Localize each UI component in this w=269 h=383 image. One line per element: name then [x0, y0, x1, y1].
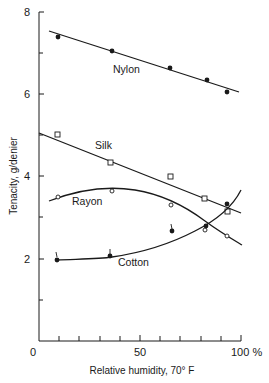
- series-silk: Silk: [39, 132, 241, 214]
- x-axis-title: Relative humidity, 70° F: [90, 365, 195, 376]
- series-nylon: Nylon: [49, 31, 239, 94]
- x-tick-0: 0: [30, 346, 36, 358]
- label-rayon: Rayon: [72, 195, 103, 207]
- tenacity-chart: 8 6 4 2 0 50 100 % Relative humidity, 70…: [0, 0, 269, 383]
- y-tick-6: 6: [24, 88, 30, 100]
- y-tick-4: 4: [24, 170, 30, 182]
- y-tick-8: 8: [24, 6, 30, 18]
- x-tick-100: 100 %: [231, 346, 262, 358]
- y-axis-title: Tenacity, g/denier: [8, 137, 19, 215]
- label-cotton: Cotton: [118, 256, 149, 268]
- x-tick-50: 50: [134, 346, 146, 358]
- y-tick-2: 2: [24, 253, 30, 265]
- label-silk: Silk: [95, 139, 113, 151]
- series-rayon: Rayon: [49, 188, 242, 245]
- axes: [39, 12, 241, 341]
- label-nylon: Nylon: [113, 63, 140, 75]
